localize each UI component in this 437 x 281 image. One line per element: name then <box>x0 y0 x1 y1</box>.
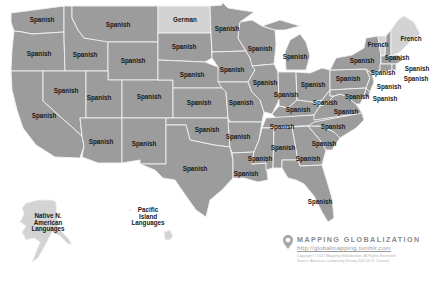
map-pin-icon <box>283 235 293 249</box>
copyright-notice: Copyright © 2017 Mapping Globalization. … <box>297 254 396 264</box>
state-label-ms: Spanish <box>248 156 273 162</box>
state-label-nv: Spanish <box>54 88 79 94</box>
state-label-ny-north: French <box>368 42 389 48</box>
state-label-me: French <box>401 36 422 42</box>
state-label-wa: Spanish <box>30 17 55 23</box>
state-label-ne: Spanish <box>180 72 205 78</box>
state-label-ct: Spanish <box>371 70 396 76</box>
state-label-ga: Spanish <box>296 156 321 162</box>
state-label-va: Spanish <box>334 109 359 115</box>
state-label-mo: Spanish <box>229 100 254 106</box>
state-label-ut: Spanish <box>87 95 112 101</box>
state-label-az: Spanish <box>89 139 114 145</box>
state-label-co: Spanish <box>137 94 162 100</box>
state-label-wi: Spanish <box>248 46 273 52</box>
state-label-tx: Spanish <box>183 166 208 172</box>
state-label-ar: Spanish <box>226 134 251 140</box>
state-label-mn: Spanish <box>215 26 240 32</box>
state-label-ky: Spanish <box>286 107 311 113</box>
state-label-wv: Spanish <box>313 100 338 106</box>
state-label-la: Spanish <box>234 171 259 177</box>
state-label-oh: Spanish <box>301 82 326 88</box>
state-label-pa: Spanish <box>336 76 361 82</box>
state-label-ia: Spanish <box>220 67 245 73</box>
brand-url-link[interactable]: http://globalmapping.tumblr.com <box>297 244 391 251</box>
state-label-or: Spanish <box>27 51 52 57</box>
source-line: Source: American Community Survey 2012 (… <box>297 259 396 264</box>
state-hi <box>164 230 173 240</box>
state-label-ok: Spanish <box>195 127 220 133</box>
state-label-nj: Spanish <box>377 84 402 90</box>
state-label-ny: Spanish <box>350 58 375 64</box>
state-label-nd: German <box>173 17 197 23</box>
state-label-in: Spanish <box>274 92 299 98</box>
state-label-md: Spanish <box>345 94 370 100</box>
state-label-sd: Spanish <box>172 44 197 50</box>
state-label-nm: Spanish <box>132 141 157 147</box>
state-fl <box>282 160 334 222</box>
brand-name: MAPPING GLOBALIZATION <box>297 235 421 244</box>
state-label-ak: Native N. American Languages <box>31 213 64 233</box>
state-label-ma: Spanish <box>405 66 430 72</box>
state-label-nh: Spanish <box>385 55 410 61</box>
state-label-de: Spanish <box>373 96 398 102</box>
state-label-wy: Spanish <box>121 58 146 64</box>
state-label-fl: Spanish <box>308 199 333 205</box>
state-label-ca: Spanish <box>32 113 57 119</box>
state-label-nc: Spanish <box>321 124 346 130</box>
state-label-al: Spanish <box>271 145 296 151</box>
state-label-mt: Spanish <box>106 22 131 28</box>
state-label-sc: Spanish <box>312 141 337 147</box>
state-label-id: Spanish <box>73 52 98 58</box>
state-label-il: Spanish <box>253 80 278 86</box>
state-label-hi: Pacific Island Languages <box>131 207 164 227</box>
state-label-tn: Spanish <box>270 124 295 130</box>
state-label-mi: Spanish <box>283 54 308 60</box>
state-label-ks: Spanish <box>187 100 212 106</box>
state-label-ri: Spanish <box>404 76 429 82</box>
